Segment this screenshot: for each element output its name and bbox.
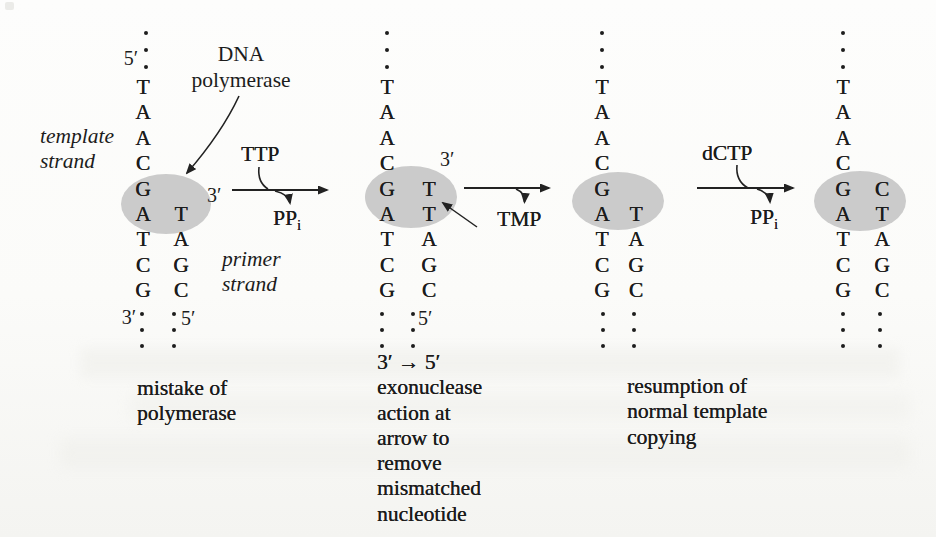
- primer-base: C: [415, 278, 443, 303]
- template-base: T: [129, 227, 157, 252]
- strand-continuation-dot: [600, 31, 604, 35]
- strand-continuation-dot: [144, 31, 148, 35]
- template-base: G: [588, 177, 616, 202]
- strand-continuation-dot: [140, 344, 144, 348]
- strand-continuation-dot: [600, 48, 604, 52]
- text-line: mismatched: [377, 476, 482, 501]
- strand-continuation-dot: [632, 328, 636, 332]
- template-base: A: [829, 100, 857, 125]
- strand-continuation-dot: [144, 65, 148, 69]
- dna-polymerase-pointer-arrow: [187, 96, 239, 173]
- product-exit-curve-2: [516, 189, 525, 202]
- primer-3prime-label: 3′: [207, 184, 239, 206]
- template-base: C: [588, 253, 616, 278]
- substrate-entry-curve-1: [259, 167, 268, 189]
- template-base: T: [373, 75, 401, 100]
- strand-continuation-dot: [632, 344, 636, 348]
- template-base: A: [373, 100, 401, 125]
- template-base: C: [129, 151, 157, 176]
- substrate-label-dctp: dCTP: [702, 142, 752, 165]
- text-line: 3′ → 5′: [377, 350, 482, 375]
- primer-base: T: [868, 202, 896, 227]
- strand-continuation-dot: [878, 328, 882, 332]
- template-base: T: [829, 75, 857, 100]
- template-base: A: [588, 100, 616, 125]
- strand-continuation-dot: [601, 344, 605, 348]
- strand-continuation-dot: [600, 65, 604, 69]
- template-base: A: [373, 126, 401, 151]
- strand-continuation-dot: [841, 48, 845, 52]
- text-line: polymerase: [137, 401, 236, 426]
- strand-continuation-dot: [841, 328, 845, 332]
- strand-continuation-dot: [380, 312, 384, 316]
- polymerase-active-site-highlight-stage3: [572, 172, 664, 230]
- text-line: action at: [377, 401, 482, 426]
- primer-3prime-label: 3′: [440, 148, 472, 170]
- text-line: arrow to: [377, 426, 482, 451]
- template-base: G: [829, 177, 857, 202]
- primer-strand-label: primerstrand: [222, 247, 281, 296]
- strand-continuation-dot: [411, 312, 415, 316]
- template-base: A: [829, 126, 857, 151]
- primer-base: C: [868, 177, 896, 202]
- primer-base: C: [167, 278, 195, 303]
- strand-continuation-dot: [380, 344, 384, 348]
- template-base: C: [588, 151, 616, 176]
- text-line: copying: [627, 425, 767, 450]
- primer-base: T: [622, 202, 650, 227]
- strand-continuation-dot: [140, 312, 144, 316]
- product-label-ppi-2: PPi: [750, 206, 778, 229]
- template-base: G: [588, 278, 616, 303]
- caption-step2-exonuclease: 3′ → 5′exonucleaseaction atarrow toremov…: [377, 350, 482, 527]
- ppi-text: PP: [273, 206, 297, 230]
- template-base: A: [373, 202, 401, 227]
- strand-continuation-dot: [172, 312, 176, 316]
- strand-continuation-dot: [172, 344, 176, 348]
- strand-continuation-dot: [841, 31, 845, 35]
- top-5prime-label: 5′: [100, 47, 138, 69]
- strand-continuation-dot: [385, 48, 389, 52]
- product-label-ppi-1: PPi: [273, 207, 301, 230]
- caption-step1-mistake: mistake ofpolymerase: [137, 376, 236, 427]
- strand-continuation-dot: [380, 328, 384, 332]
- ppi-subscript: i: [297, 218, 301, 233]
- bottom-5prime-label: 5′: [418, 307, 450, 329]
- primer-base: G: [868, 253, 896, 278]
- strand-continuation-dot: [601, 312, 605, 316]
- template-base: C: [129, 253, 157, 278]
- text-line: nucleotide: [377, 502, 482, 527]
- caption-step3-resumption: resumption ofnormal templatecopying: [627, 374, 767, 450]
- template-base: G: [129, 278, 157, 303]
- strand-continuation-dot: [385, 65, 389, 69]
- strand-continuation-dot: [632, 312, 636, 316]
- template-base: G: [373, 278, 401, 303]
- primer-base: A: [167, 227, 195, 252]
- text-line: DNA: [176, 42, 306, 68]
- template-base: A: [829, 202, 857, 227]
- template-base: T: [588, 75, 616, 100]
- text-line: exonuclease: [377, 375, 482, 400]
- template-base: T: [373, 227, 401, 252]
- primer-base: T: [415, 177, 443, 202]
- substrate-entry-curve-3: [737, 165, 748, 188]
- text-line: template: [40, 124, 114, 149]
- template-base: A: [129, 126, 157, 151]
- strand-continuation-dot: [411, 344, 415, 348]
- template-base: G: [829, 278, 857, 303]
- template-base: T: [129, 75, 157, 100]
- template-base: A: [129, 100, 157, 125]
- template-base: A: [129, 202, 157, 227]
- primer-base: A: [622, 227, 650, 252]
- text-line: mistake of: [137, 376, 236, 401]
- strand-continuation-dot: [601, 328, 605, 332]
- text-line: remove: [377, 451, 482, 476]
- primer-base: A: [415, 227, 443, 252]
- substrate-label-ttp: TTP: [241, 143, 279, 166]
- template-base: G: [373, 177, 401, 202]
- template-strand-label: templatestrand: [40, 124, 114, 173]
- template-base: A: [588, 202, 616, 227]
- template-base: T: [588, 227, 616, 252]
- template-base: C: [829, 151, 857, 176]
- template-base: G: [129, 177, 157, 202]
- primer-base: A: [868, 227, 896, 252]
